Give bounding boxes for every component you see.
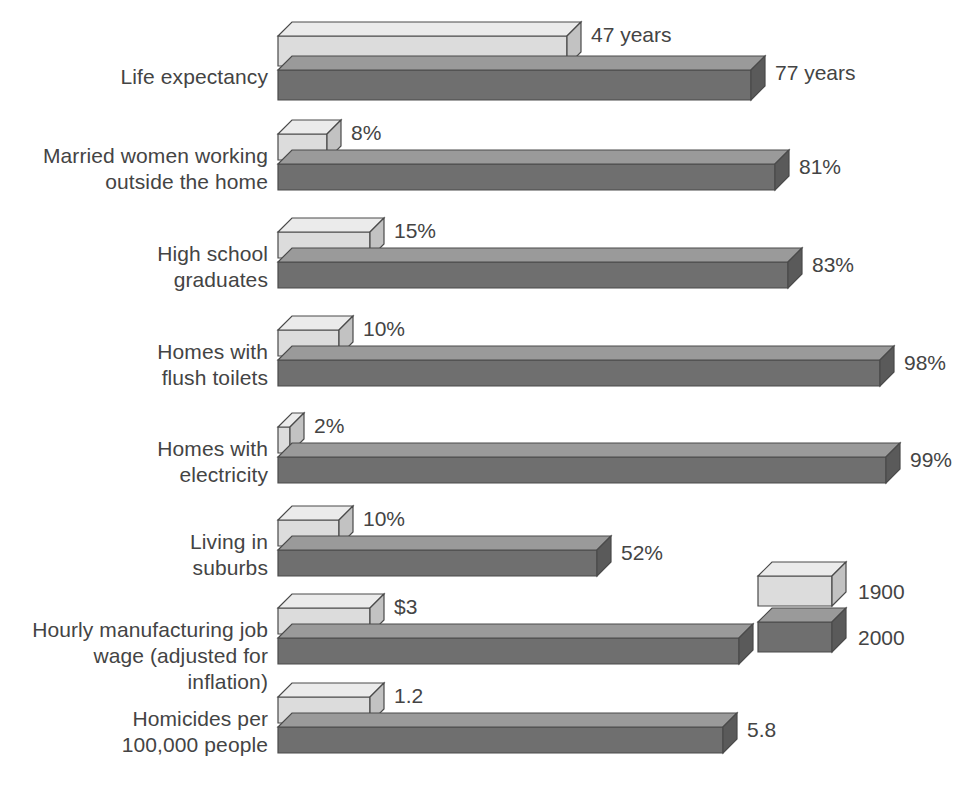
- value-label-2000: 98%: [904, 352, 946, 373]
- legend-label-2000: 2000: [858, 627, 905, 648]
- bar-2000: [278, 262, 788, 288]
- bar-2000: [278, 360, 880, 386]
- category-label: Hourly manufacturing job wage (adjusted …: [10, 617, 268, 695]
- value-label-1900: 8%: [351, 122, 381, 143]
- value-label-2000: 81%: [799, 156, 841, 177]
- value-label-2000: 52%: [621, 542, 663, 563]
- category-label: Homicides per 100,000 people: [10, 706, 268, 758]
- category-label: Life expectancy: [10, 64, 268, 90]
- value-label-1900: 10%: [363, 318, 405, 339]
- value-label-1900: 2%: [314, 415, 344, 436]
- value-label-2000: 83%: [812, 254, 854, 275]
- value-label-2000: 77 years: [775, 62, 856, 83]
- bar-2000: [278, 727, 723, 753]
- legend-swatch-1900: [758, 576, 832, 606]
- bar-2000: [278, 70, 751, 100]
- value-label-1900: 10%: [363, 508, 405, 529]
- legend-swatch-2000: [758, 622, 832, 652]
- value-label-1900: 1.2: [394, 685, 423, 706]
- category-label: Homes with flush toilets: [10, 339, 268, 391]
- legend-label-1900: 1900: [858, 581, 905, 602]
- value-label-1900: 15%: [394, 220, 436, 241]
- value-label-1900: $3: [394, 596, 417, 617]
- value-label-2000: 99%: [910, 449, 952, 470]
- bar-2000: [278, 457, 886, 483]
- value-label-1900: 47 years: [591, 24, 672, 45]
- category-label: High school graduates: [10, 241, 268, 293]
- category-label: Homes with electricity: [10, 436, 268, 488]
- bar-chart: Life expectancy47 years77 yearsMarried w…: [0, 0, 974, 810]
- category-label: Married women working outside the home: [10, 143, 268, 195]
- value-label-2000: 5.8: [747, 719, 776, 740]
- bar-2000: [278, 638, 739, 664]
- bar-2000: [278, 550, 597, 576]
- bar-2000: [278, 164, 775, 190]
- category-label: Living in suburbs: [10, 529, 268, 581]
